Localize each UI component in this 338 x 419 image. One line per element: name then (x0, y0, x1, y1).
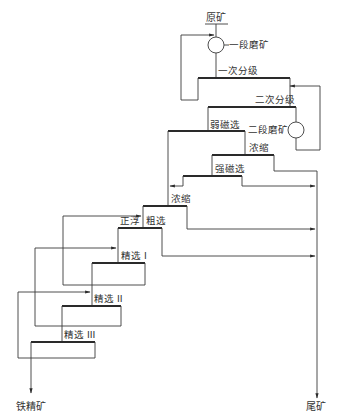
stage-hms: 强磁选 (170, 163, 315, 186)
thick2-label: 浓缩 (171, 193, 191, 204)
grind2-out (296, 138, 310, 150)
raw-ore-input: 原矿 (205, 11, 228, 37)
class1-recycle-loop (181, 35, 214, 100)
rough-label: 粗选 (146, 215, 166, 226)
stage-thick2: 浓缩 (143, 193, 315, 229)
clean3-tail (31, 342, 95, 358)
concentrate-label: 铁精矿 (16, 400, 46, 412)
grinding-mill-icon (208, 37, 224, 53)
clean2-tail (62, 306, 121, 326)
hms-label: 强磁选 (215, 163, 245, 174)
grinding-mill-icon-2 (288, 122, 304, 138)
thick1-overflow (274, 155, 317, 171)
float-prefix-label: 正浮 (120, 215, 140, 226)
clean1-label: 精选 I (121, 250, 147, 261)
raw-ore-label: 原矿 (206, 11, 226, 23)
wms-label: 弱磁选 (210, 119, 240, 130)
clean2-recycle (35, 248, 116, 326)
thick2-overflow (187, 206, 315, 229)
hms-conc (170, 176, 183, 186)
hms-tail (242, 176, 315, 186)
grind2-label: 二段磨矿 (248, 124, 288, 135)
class2-label: 二次分级 (255, 94, 295, 105)
rough-tail (162, 228, 315, 256)
clean3-recycle (18, 292, 90, 358)
class1-label: 一次分级 (218, 65, 258, 76)
flowsheet-diagram: 原矿 一段磨矿 一次分级 二次分级 二段磨矿 弱磁选 (0, 0, 338, 419)
stage-rough: 正浮 粗选 (118, 215, 315, 263)
grind1-label: 一段磨矿 (229, 39, 269, 50)
thick1-label: 浓缩 (249, 142, 269, 153)
clean3-label: 精选 III (64, 329, 95, 340)
stage-clean3: 精选 III (31, 329, 95, 393)
tailings-label: 尾矿 (306, 400, 326, 412)
clean1-tail (92, 263, 145, 285)
clean2-label: 精选 II (94, 293, 123, 304)
